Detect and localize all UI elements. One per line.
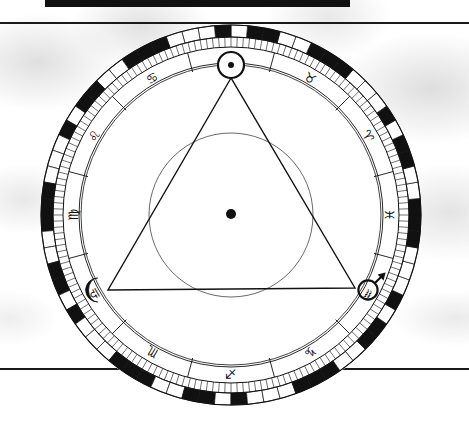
sun-symbol-dot [228,62,234,68]
degree-block-filled [231,392,248,405]
zodiac-glyph-sagittarius: ♐ [225,366,237,381]
degree-block-filled [41,215,54,232]
center-point-dot [226,209,236,219]
degree-block-filled [408,215,421,232]
chart-page: ♊♋♌♍♎♏♐♑♒♓♈♉ [0,0,469,442]
degree-block-filled [41,198,54,215]
zodiac-wheel: ♊♋♌♍♎♏♐♑♒♓♈♉ [0,0,469,442]
degree-block-empty [214,392,231,405]
degree-block-filled [408,198,421,215]
degree-block-empty [231,25,248,38]
zodiac-glyph-virgo: ♍ [66,209,81,221]
zodiac-glyph-pisces: ♓ [382,209,397,221]
degree-block-filled [214,25,231,38]
center-point-group [226,209,236,219]
